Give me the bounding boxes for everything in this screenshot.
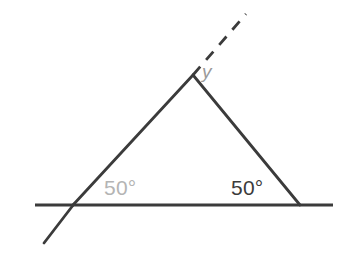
geometry-diagram: 50° 50° y bbox=[0, 0, 350, 254]
dashed-ray-segment bbox=[193, 14, 246, 75]
geometry-figure bbox=[0, 0, 350, 254]
right-angle-label: 50° bbox=[231, 176, 263, 200]
apex-angle-label: y bbox=[202, 61, 212, 83]
transversal-tail-segment bbox=[44, 204, 74, 243]
left-angle-label: 50° bbox=[104, 176, 136, 200]
